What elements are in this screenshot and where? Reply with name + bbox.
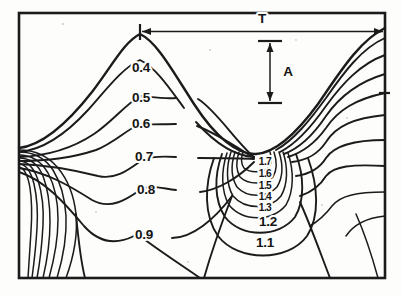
contour-line-0-9-right [172,196,232,238]
period-dimension-label: T [258,11,267,26]
contour-line-right-8 [310,192,385,226]
contour-plot-svg: T A 0.4 0.5 0.6 0.7 0.8 0.9 1.7 1.6 1.5 … [0,0,402,296]
contour-line-right-9 [346,216,385,236]
contour-label-0-9: 0.9 [135,227,153,242]
contour-label-1-4: 1.4 [259,191,272,202]
descending-lines-group [76,196,378,278]
contour-label-1-2: 1.2 [259,214,277,229]
contour-line-right-5 [292,115,385,162]
amplitude-dimension-label: A [283,64,293,79]
contour-label-1-3: 1.3 [259,202,272,213]
amplitude-dimension-group: A [258,41,293,103]
period-dimension-group: T [140,11,383,40]
contour-label-1-6: 1.6 [259,168,272,179]
figure-container: T A 0.4 0.5 0.6 0.7 0.8 0.9 1.7 1.6 1.5 … [0,0,402,296]
fan-line-left-7 [19,167,32,278]
right-contours-group [276,38,390,236]
contour-label-1-7: 1.7 [259,156,272,167]
descending-line-center-left [140,236,200,278]
amplitude-dimension-arrowhead-top [267,43,274,52]
contour-label-1-5: 1.5 [259,180,272,191]
contour-line-right-2 [280,55,385,152]
contour-label-1-1: 1.1 [256,235,275,250]
contour-label-0-7: 0.7 [135,149,153,164]
amplitude-dimension-arrowhead-bottom [267,92,274,101]
left-contour-labels-group: 0.4 0.5 0.6 0.7 0.8 0.9 [132,60,156,242]
period-dimension-arrowhead-left [142,28,151,35]
contour-label-0-8: 0.8 [137,182,156,197]
contour-label-0-6: 0.6 [132,116,151,131]
contour-label-0-5: 0.5 [132,90,151,105]
descending-line-left-inner [76,214,85,278]
contour-label-0-4: 0.4 [132,60,151,75]
